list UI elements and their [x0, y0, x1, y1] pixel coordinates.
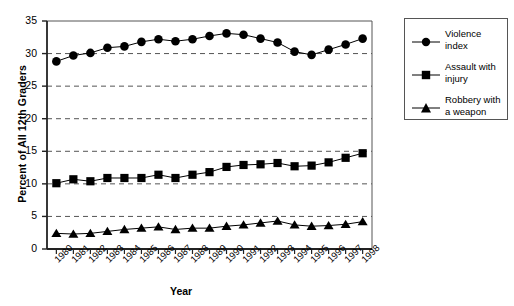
legend-marker-triangle-icon [411, 95, 441, 121]
data-point [52, 57, 61, 66]
legend-label-violence-index: Violence index [445, 28, 509, 51]
data-point [273, 216, 283, 224]
data-point [307, 51, 316, 60]
y-tick-label: 5 [15, 209, 37, 221]
data-point [153, 222, 163, 230]
data-point [86, 177, 94, 185]
data-point [273, 38, 282, 47]
legend-label-assault-with-injury: Assault with injury [445, 61, 509, 84]
data-point [69, 51, 78, 60]
data-point [188, 171, 196, 179]
data-point [52, 179, 60, 187]
data-point [69, 175, 77, 183]
legend-label-line2: injury [445, 73, 509, 85]
data-point [358, 217, 368, 225]
chart-figure: Percent of All 12th Graders Year 0510152… [0, 0, 514, 306]
data-point [103, 174, 111, 182]
data-point [256, 160, 264, 168]
y-tick-label: 30 [15, 47, 37, 59]
legend-item-assault-with-injury: Assault with injury [405, 62, 509, 88]
data-point [359, 149, 367, 157]
y-tick-label: 35 [15, 14, 37, 26]
data-point [171, 37, 180, 46]
data-point [222, 29, 231, 38]
data-point [205, 168, 213, 176]
data-point [239, 30, 248, 39]
legend-label-line1: Violence [445, 28, 509, 40]
y-tick-label: 10 [15, 177, 37, 189]
legend-marker-circle-icon [411, 29, 441, 55]
y-tick-label: 0 [15, 242, 37, 254]
data-point [154, 35, 163, 44]
data-point [325, 158, 333, 166]
data-point [154, 171, 162, 179]
data-point [239, 161, 247, 169]
data-point [307, 162, 315, 170]
legend-label-line1: Assault with [445, 61, 509, 73]
legend: Violence index Assault with injury Robbe… [404, 18, 508, 120]
y-tick-label: 15 [15, 144, 37, 156]
data-point [273, 159, 281, 167]
legend-label-line2: index [445, 40, 509, 52]
data-point [51, 229, 61, 237]
data-point [324, 45, 333, 54]
y-tick-label: 20 [15, 112, 37, 124]
legend-label-line2: a weapon [445, 106, 509, 118]
data-point [188, 35, 197, 44]
data-point [205, 32, 214, 41]
data-point [86, 49, 95, 58]
data-point [120, 174, 128, 182]
data-point [290, 47, 299, 56]
data-point [171, 174, 179, 182]
legend-item-violence-index: Violence index [405, 29, 509, 55]
data-point [120, 42, 129, 51]
y-tick-label: 25 [15, 79, 37, 91]
data-point [222, 163, 230, 171]
data-point [256, 34, 265, 43]
data-point [341, 40, 350, 49]
data-point [137, 174, 145, 182]
legend-marker-square-icon [411, 62, 441, 88]
data-point [358, 34, 367, 43]
legend-label-line1: Robbery with [445, 94, 509, 106]
legend-item-robbery-with-a-weapon: Robbery with a weapon [405, 95, 509, 121]
data-point [137, 38, 146, 47]
data-point [103, 43, 112, 52]
data-point [290, 162, 298, 170]
data-point [342, 154, 350, 162]
legend-label-robbery-with-a-weapon: Robbery with a weapon [445, 94, 509, 117]
